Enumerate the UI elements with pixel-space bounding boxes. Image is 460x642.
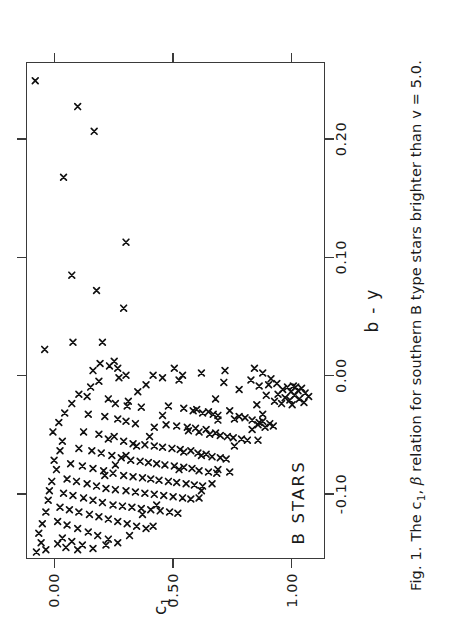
y-tick-mark-right xyxy=(172,53,173,62)
y-tick-label: 1.00 xyxy=(284,573,300,621)
x-tick-mark-top xyxy=(17,257,26,258)
y-tick-mark-right xyxy=(54,53,55,62)
y-tick-mark xyxy=(54,559,55,568)
y-tick-label: 0.00 xyxy=(46,573,62,621)
caption-mid: , xyxy=(408,485,424,495)
x-tick-label: 0.00 xyxy=(333,358,349,393)
x-tick-label: -0.10 xyxy=(333,474,349,515)
x-axis-title: b - y xyxy=(362,62,382,559)
y-axis-title-subscript: 1 xyxy=(159,597,173,605)
caption-subscript: 1 xyxy=(415,494,427,501)
figure-caption: Fig. 1. The c1, β relation for southern … xyxy=(408,46,427,591)
x-tick-mark-top xyxy=(17,493,26,494)
y-axis-title: c1 xyxy=(150,597,173,615)
x-tick-label: 0.20 xyxy=(333,122,349,157)
y-tick-mark xyxy=(172,559,173,568)
figure-rotator: B STARS -0.100.000.100.200.000.501.00 b … xyxy=(0,21,460,621)
x-tick-mark-top xyxy=(17,375,26,376)
plot-area: B STARS xyxy=(26,62,325,559)
caption-prefix: Fig. 1. The c xyxy=(408,501,424,591)
caption-suffix: relation for southern B type stars brigh… xyxy=(408,60,424,476)
y-tick-mark xyxy=(291,559,292,568)
y-tick-mark-right xyxy=(291,53,292,62)
x-tick-mark-top xyxy=(17,138,26,139)
caption-greek-beta: β xyxy=(408,476,424,485)
scatter-plot-canvas xyxy=(27,63,324,558)
x-tick-label: 0.10 xyxy=(333,240,349,275)
annotation-b-stars: B STARS xyxy=(288,460,307,544)
